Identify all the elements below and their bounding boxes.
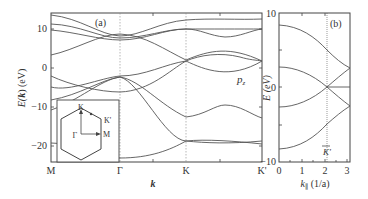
a-xtick-K: K: [182, 165, 190, 176]
inset-Gamma: Γ: [72, 131, 77, 140]
b-xtick-0: 0: [277, 165, 282, 176]
b-xlabel: k∥ (1/a): [300, 178, 329, 191]
inset-K: K: [78, 103, 84, 112]
brillouin-zone-inset: K K' Γ M: [57, 100, 119, 162]
b-ytick-minus10: −10: [260, 156, 276, 167]
b-xtick-1: 1: [300, 165, 305, 176]
panel-b-frame: [279, 13, 350, 162]
b-ytick-10: 10: [266, 8, 276, 19]
a-ytick-0: 0: [42, 62, 47, 73]
a-xlabel: k: [151, 178, 156, 189]
band-structure-figure: (a) pz 10 0 −10 −20 M Γ K K' k E(k) (eV)…: [0, 0, 368, 199]
b-xtick-3: 3: [345, 165, 350, 176]
a-xtick-M: M: [47, 165, 56, 176]
panel-b: (b) 10 0 −10 0 1 2 3 K' E (eV) k∥ (1/a): [260, 8, 350, 191]
inset-M: M: [103, 130, 110, 139]
panel-a-label: (a): [95, 17, 106, 29]
a-xtick-Gamma: Γ: [117, 165, 123, 176]
b-ticks: [279, 13, 347, 162]
b-xtick-2: 2: [323, 165, 328, 176]
panel-b-label: (b): [330, 18, 342, 30]
a-ytick-minus10: −10: [31, 101, 47, 112]
b-bands: [279, 25, 350, 149]
a-ytick-10: 10: [37, 23, 47, 34]
kbar-label: K': [322, 147, 332, 157]
b-ylabel: E (eV): [261, 74, 273, 101]
pz-label: pz: [236, 73, 246, 87]
a-ytick-minus20: −20: [31, 140, 47, 151]
panel-a: (a) pz 10 0 −10 −20 M Γ K K' k E(k) (eV)…: [16, 13, 267, 189]
inset-Kprime: K': [104, 116, 112, 125]
a-ylabel: E(k) (eV): [16, 69, 28, 109]
